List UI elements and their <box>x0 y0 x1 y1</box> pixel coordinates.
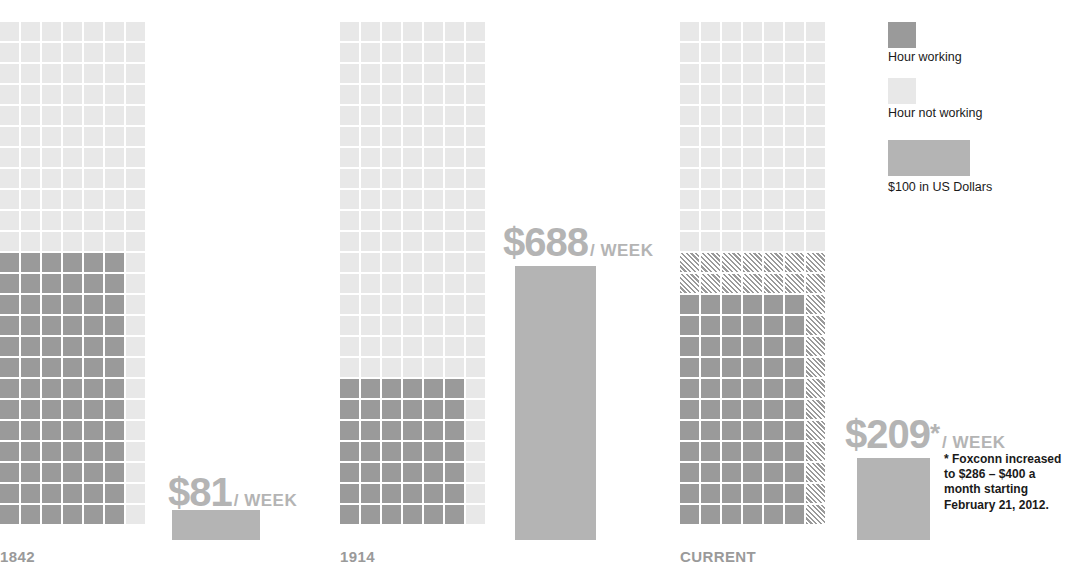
waffle-cell-hatch <box>806 463 825 482</box>
waffle-cell-on <box>403 463 422 482</box>
waffle-cell-off <box>743 211 762 230</box>
money-bar-current <box>857 458 930 540</box>
waffle-cell-on <box>785 379 804 398</box>
waffle-cell-off <box>340 43 359 62</box>
waffle-cell-on <box>84 421 103 440</box>
waffle-cell-on <box>21 400 40 419</box>
waffle-cell-off <box>63 190 82 209</box>
waffle-cell-off <box>21 43 40 62</box>
waffle-cell-on <box>21 442 40 461</box>
waffle-cell-on <box>722 358 741 377</box>
waffle-cell-on <box>722 295 741 314</box>
waffle-cell-off <box>466 379 485 398</box>
waffle-cell-off <box>806 106 825 125</box>
waffle-cell-hatch <box>806 484 825 503</box>
waffle-cell-hatch <box>806 337 825 356</box>
waffle-cell-off <box>382 232 401 251</box>
waffle-cell-on <box>680 463 699 482</box>
waffle-cell-off <box>63 232 82 251</box>
waffle-cell-off <box>764 127 783 146</box>
waffle-cell-off <box>0 85 19 104</box>
waffle-cell-on <box>105 295 124 314</box>
value-asterisk-current: * <box>930 418 940 448</box>
waffle-cell-off <box>466 85 485 104</box>
waffle-cell-off <box>126 148 145 167</box>
waffle-cell-on <box>382 463 401 482</box>
waffle-cell-off <box>42 106 61 125</box>
waffle-cell-on <box>701 358 720 377</box>
waffle-cell-off <box>361 316 380 335</box>
waffle-cell-on <box>361 505 380 524</box>
waffle-cell-off <box>764 43 783 62</box>
waffle-cell-on <box>0 484 19 503</box>
waffle-cell-on <box>42 400 61 419</box>
waffle-cell-on <box>785 484 804 503</box>
waffle-cell-on <box>105 442 124 461</box>
waffle-cell-off <box>361 43 380 62</box>
waffle-cell-off <box>0 43 19 62</box>
waffle-cell-on <box>21 253 40 272</box>
waffle-cell-on <box>84 316 103 335</box>
waffle-cell-off <box>361 358 380 377</box>
waffle-cell-on <box>84 337 103 356</box>
waffle-cell-on <box>340 421 359 440</box>
waffle-cell-on <box>722 442 741 461</box>
waffle-cell-on <box>340 463 359 482</box>
waffle-cell-on <box>382 484 401 503</box>
waffle-cell-off <box>680 106 699 125</box>
waffle-cell-on <box>722 316 741 335</box>
waffle-cell-off <box>63 169 82 188</box>
waffle-cell-on <box>403 379 422 398</box>
waffle-cell-off <box>0 190 19 209</box>
waffle-cell-off <box>466 295 485 314</box>
waffle-cell-off <box>0 22 19 41</box>
waffle-cell-off <box>445 22 464 41</box>
waffle-cell-on <box>722 337 741 356</box>
waffle-cell-hatch <box>806 379 825 398</box>
waffle-cell-off <box>806 211 825 230</box>
waffle-cell-hatch <box>806 358 825 377</box>
waffle-cell-off <box>340 169 359 188</box>
waffle-cell-off <box>743 22 762 41</box>
waffle-cell-off <box>466 463 485 482</box>
waffle-cell-off <box>722 43 741 62</box>
waffle-cell-on <box>84 400 103 419</box>
waffle-cell-on <box>445 505 464 524</box>
waffle-cell-on <box>680 442 699 461</box>
waffle-cell-on <box>785 463 804 482</box>
waffle-cell-off <box>403 64 422 83</box>
value-per-current: / WEEK <box>942 433 1005 452</box>
waffle-cell-off <box>361 148 380 167</box>
waffle-cell-on <box>0 400 19 419</box>
waffle-cell-on <box>743 295 762 314</box>
waffle-cell-off <box>382 127 401 146</box>
waffle-cell-hatch <box>806 316 825 335</box>
waffle-cell-off <box>340 127 359 146</box>
waffle-cell-on <box>785 295 804 314</box>
waffle-cell-off <box>361 295 380 314</box>
waffle-cell-off <box>743 127 762 146</box>
waffle-cell-off <box>21 232 40 251</box>
waffle-cell-off <box>0 148 19 167</box>
waffle-cell-on <box>42 484 61 503</box>
waffle-cell-on <box>63 442 82 461</box>
waffle-cell-on <box>785 358 804 377</box>
waffle-cell-on <box>0 379 19 398</box>
waffle-cell-on <box>84 274 103 293</box>
waffle-cell-off <box>466 316 485 335</box>
waffle-cell-off <box>340 64 359 83</box>
waffle-cell-off <box>701 43 720 62</box>
waffle-cell-on <box>105 316 124 335</box>
waffle-cell-on <box>701 421 720 440</box>
waffle-cell-on <box>21 463 40 482</box>
waffle-cell-off <box>785 169 804 188</box>
waffle-cell-off <box>743 43 762 62</box>
waffle-cell-off <box>403 127 422 146</box>
waffle-cell-hatch <box>806 253 825 272</box>
waffle-cell-on <box>382 442 401 461</box>
waffle-cell-off <box>680 169 699 188</box>
waffle-cell-off <box>424 316 443 335</box>
waffle-cell-hatch <box>806 442 825 461</box>
waffle-cell-off <box>42 211 61 230</box>
waffle-cell-off <box>403 316 422 335</box>
